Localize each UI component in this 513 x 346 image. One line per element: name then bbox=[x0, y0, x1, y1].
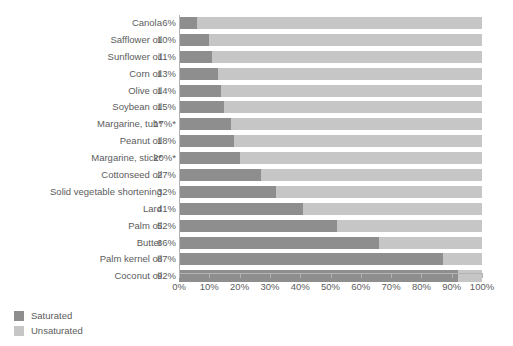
legend-swatch-icon bbox=[14, 326, 24, 336]
x-axis-tick bbox=[391, 274, 392, 278]
bar-segment-unsaturated bbox=[179, 51, 482, 63]
chart-row: Palm kernel oil87% bbox=[0, 253, 513, 270]
x-axis-tick-label: 80% bbox=[412, 281, 431, 293]
x-axis-tick bbox=[361, 274, 362, 278]
chart-row: Lard41% bbox=[0, 203, 513, 220]
bar-segment-saturated bbox=[179, 51, 212, 63]
row-value-label: 52% bbox=[157, 220, 176, 232]
legend-swatch-icon bbox=[14, 311, 24, 321]
row-value-label: 6% bbox=[162, 17, 176, 29]
row-value-label: 13% bbox=[157, 68, 176, 80]
chart-rows: Canola6%Safflower oil10%Sunflower oil11%… bbox=[0, 17, 513, 287]
row-category-label: Cottonseed oil bbox=[101, 169, 162, 181]
x-axis-tick-label: 0% bbox=[172, 281, 186, 293]
chart-row: Solid vegetable shortening32% bbox=[0, 186, 513, 203]
bar-segment-unsaturated bbox=[179, 152, 482, 164]
bar-segment-unsaturated bbox=[179, 34, 482, 46]
x-axis-tick-label: 30% bbox=[260, 281, 279, 293]
chart-row: Soybean oil15% bbox=[0, 101, 513, 118]
bar-segment-saturated bbox=[179, 203, 303, 215]
bar-segment-saturated bbox=[179, 118, 231, 130]
chart-row: Peanut oil18% bbox=[0, 135, 513, 152]
row-value-label: 14% bbox=[157, 85, 176, 97]
chart-row: Olive oil14% bbox=[0, 85, 513, 102]
bar-segment-saturated bbox=[179, 85, 221, 97]
bar-segment-unsaturated bbox=[179, 101, 482, 113]
bar-segment-saturated bbox=[179, 169, 261, 181]
x-axis-tick-label: 10% bbox=[200, 281, 219, 293]
y-axis-line bbox=[179, 15, 180, 273]
row-value-label: 17%* bbox=[153, 118, 176, 130]
x-axis-tick-label: 40% bbox=[291, 281, 310, 293]
x-axis-tick bbox=[270, 274, 271, 278]
row-category-label: Peanut oil bbox=[120, 135, 162, 147]
bar-segment-saturated bbox=[179, 220, 337, 232]
legend-item[interactable]: Saturated bbox=[14, 308, 83, 323]
bar-segment-unsaturated bbox=[179, 169, 482, 181]
chart-row: Butter66% bbox=[0, 237, 513, 254]
bar-segment-saturated bbox=[179, 237, 379, 249]
bar-segment-unsaturated bbox=[179, 68, 482, 80]
row-value-label: 66% bbox=[157, 237, 176, 249]
bar-segment-saturated bbox=[179, 152, 240, 164]
row-category-label: Soybean oil bbox=[112, 101, 162, 113]
x-axis-tick bbox=[300, 274, 301, 278]
legend-label: Unsaturated bbox=[31, 325, 83, 337]
bar-segment-saturated bbox=[179, 135, 234, 147]
x-axis-tick-label: 20% bbox=[230, 281, 249, 293]
row-value-label: 15% bbox=[157, 101, 176, 113]
x-axis-tick bbox=[421, 274, 422, 278]
bar-segment-saturated bbox=[179, 68, 218, 80]
stacked-bar-chart: Canola6%Safflower oil10%Sunflower oil11%… bbox=[0, 0, 513, 346]
x-axis-tick bbox=[209, 274, 210, 278]
row-value-label: 41% bbox=[157, 203, 176, 215]
chart-row: Margarine, tub*17%* bbox=[0, 118, 513, 135]
chart-row: Canola6% bbox=[0, 17, 513, 34]
legend-label: Saturated bbox=[31, 310, 72, 322]
chart-row: Palm oil52% bbox=[0, 220, 513, 237]
x-axis-tick-label: 60% bbox=[351, 281, 370, 293]
chart-row: Safflower oil10% bbox=[0, 34, 513, 51]
bar-segment-unsaturated bbox=[179, 220, 482, 232]
x-axis-tick bbox=[452, 274, 453, 278]
bar-segment-unsaturated bbox=[179, 17, 482, 29]
chart-row: Margarine, stick*20%* bbox=[0, 152, 513, 169]
row-category-label: Canola bbox=[132, 17, 162, 29]
row-value-label: 87% bbox=[157, 253, 176, 265]
x-axis-tick-label: 50% bbox=[321, 281, 340, 293]
row-value-label: 20%* bbox=[153, 152, 176, 164]
chart-legend: SaturatedUnsaturated bbox=[14, 308, 83, 338]
x-axis-tick-label: 90% bbox=[442, 281, 461, 293]
row-value-label: 18% bbox=[157, 135, 176, 147]
row-value-label: 27% bbox=[157, 169, 176, 181]
bar-segment-saturated bbox=[179, 186, 276, 198]
chart-row: Corn oil13% bbox=[0, 68, 513, 85]
bar-segment-unsaturated bbox=[179, 203, 482, 215]
row-category-label: Sunflower oil bbox=[108, 51, 162, 63]
bar-segment-saturated bbox=[179, 101, 224, 113]
row-category-label: Safflower oil bbox=[110, 34, 162, 46]
row-category-label: Solid vegetable shortening bbox=[50, 186, 162, 198]
x-axis-tick bbox=[331, 274, 332, 278]
bar-segment-saturated bbox=[179, 34, 209, 46]
row-value-label: 11% bbox=[158, 51, 176, 63]
bar-segment-unsaturated bbox=[179, 118, 482, 130]
row-category-label: Coconut oil bbox=[114, 270, 162, 282]
row-value-label: 10% bbox=[157, 34, 176, 46]
x-axis-tick-label: 100% bbox=[470, 281, 494, 293]
row-category-label: Margarine, tub* bbox=[97, 118, 162, 130]
bar-segment-unsaturated bbox=[179, 186, 482, 198]
legend-item[interactable]: Unsaturated bbox=[14, 323, 83, 338]
row-category-label: Palm kernel oil bbox=[100, 253, 162, 265]
bar-segment-saturated bbox=[179, 253, 443, 265]
x-axis-tick bbox=[240, 274, 241, 278]
bar-segment-unsaturated bbox=[179, 237, 482, 249]
row-category-label: Margarine, stick* bbox=[91, 152, 162, 164]
bar-segment-saturated bbox=[179, 17, 197, 29]
bar-segment-unsaturated bbox=[179, 135, 482, 147]
chart-row: Cottonseed oil27% bbox=[0, 169, 513, 186]
x-axis-tick bbox=[179, 274, 180, 278]
bar-segment-unsaturated bbox=[179, 253, 482, 265]
bar-segment-unsaturated bbox=[179, 85, 482, 97]
chart-row: Sunflower oil11% bbox=[0, 51, 513, 68]
